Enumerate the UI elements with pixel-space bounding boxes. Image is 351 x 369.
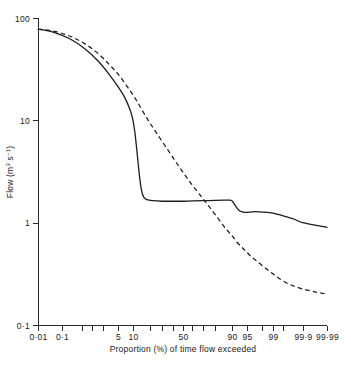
- x-axis-ticks: 0·010·15105090959999·999·99: [29, 326, 339, 343]
- data-series-layer: [38, 29, 327, 294]
- y-tick-label: 0·1: [17, 321, 30, 331]
- x-tick-label: 5: [116, 332, 121, 342]
- x-tick-label: 95: [242, 332, 252, 342]
- y-tick-label: 100: [15, 14, 30, 24]
- y-axis-title: Flow (m3 s−1): [5, 146, 15, 198]
- chart-figure: 1001010·1 0·010·15105090959999·999·99 Pr…: [0, 0, 351, 369]
- x-tick-label: 90: [227, 332, 237, 342]
- series-solid-curve: [38, 29, 327, 227]
- x-tick-label: 0·01: [29, 332, 47, 342]
- x-tick-label: 50: [178, 332, 188, 342]
- x-tick-label: 10: [128, 332, 138, 342]
- x-tick-label: 99: [268, 332, 278, 342]
- x-tick-label: 99·9: [294, 332, 312, 342]
- y-axis-title-group: Flow (m3 s−1): [5, 146, 15, 198]
- x-tick-label: 0·1: [56, 332, 69, 342]
- y-tick-label: 1: [25, 218, 30, 228]
- x-axis-title: Proportion (%) of time flow exceeded: [110, 344, 257, 354]
- flow-duration-curve-chart: 1001010·1 0·010·15105090959999·999·99 Pr…: [0, 0, 351, 369]
- y-tick-label: 10: [20, 116, 30, 126]
- x-tick-label: 99·99: [316, 332, 339, 342]
- series-dashed-curve: [38, 29, 327, 294]
- y-axis-ticks: 1001010·1: [15, 14, 39, 331]
